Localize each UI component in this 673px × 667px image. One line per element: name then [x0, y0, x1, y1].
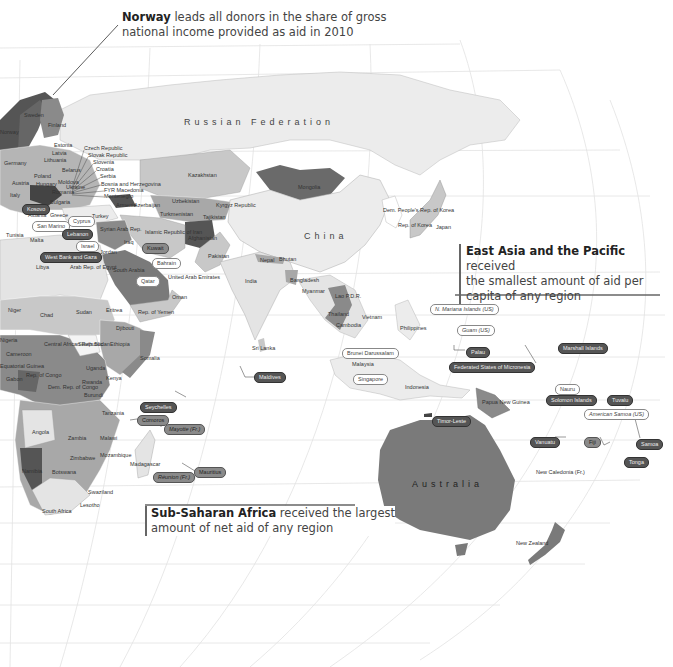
- country-label: Dem. Rep. of Congo: [48, 385, 98, 391]
- territory-pill: Samoa: [636, 439, 663, 450]
- country-label: Afghanistan: [188, 236, 217, 242]
- china-label: China: [304, 232, 348, 241]
- territory-pill: Bahrain: [152, 258, 181, 269]
- east-asia-callout-line3: capita of any region: [466, 289, 673, 304]
- country-label: Gabon: [6, 377, 23, 383]
- country-label: Kazakhstan: [188, 173, 217, 179]
- country-label: United Arab Emirates: [168, 275, 220, 281]
- country-label: Poland: [34, 174, 51, 180]
- territory-pill: Mayotte (Fr.): [164, 424, 205, 435]
- territory-pill: Brunei Darussalam: [342, 348, 399, 359]
- country-label: Tunisia: [6, 233, 24, 239]
- territory-pill: Solomon Islands: [546, 395, 597, 406]
- country-label: Japan: [436, 225, 451, 231]
- africa-callout-bold: Sub-Saharan Africa: [151, 506, 276, 520]
- country-label: Malawi: [100, 436, 117, 442]
- territory-pill: Seychelles: [140, 402, 177, 413]
- country-label: Azerbaijan: [134, 203, 160, 209]
- country-label: Bulgaria: [50, 200, 70, 206]
- territory-pill: West Bank and Gaza: [40, 252, 102, 263]
- europe-country-label: Czech Republic: [84, 146, 123, 152]
- country-label: Iraq: [124, 240, 133, 246]
- australia-label: Australia: [412, 480, 483, 489]
- madagascar-shape: [135, 430, 155, 478]
- sahel-shape: [0, 296, 115, 335]
- country-label: Myanmar: [302, 289, 325, 295]
- country-label: Equatorial Guinea: [0, 364, 44, 370]
- country-label: Latvia: [52, 151, 67, 157]
- territory-pill: Réunion (Fr.): [153, 472, 195, 483]
- country-label: Italy: [10, 193, 20, 199]
- country-label: New Zealand: [516, 541, 548, 547]
- country-label: Jordan: [100, 250, 117, 256]
- country-label: Nigeria: [0, 338, 17, 344]
- country-label: Papua New Guinea: [482, 400, 530, 406]
- norway-callout: Norway leads all donors in the share of …: [122, 10, 387, 40]
- territory-pill: Nauru: [555, 384, 580, 395]
- territory-pill: American Samoa (US): [584, 409, 649, 420]
- country-label: Vietnam: [362, 315, 382, 321]
- country-label: Indonesia: [405, 385, 429, 391]
- country-label: South Africa: [42, 509, 72, 515]
- country-label: Turkmenistan: [160, 212, 193, 218]
- europe-country-label: Slovak Republic: [88, 153, 127, 159]
- country-label: Lesotho: [80, 503, 100, 509]
- europe-country-label: Serbia: [100, 174, 116, 180]
- country-label: Tajikistan: [203, 215, 226, 221]
- europe-country-label: Slovenia: [93, 160, 114, 166]
- country-label: Kyrgyz Republic: [216, 203, 256, 209]
- country-label: Mongolia: [298, 185, 320, 191]
- country-label: Central African Republic: [44, 342, 103, 348]
- se-asia-shape: [298, 275, 368, 338]
- country-label: Bhutan: [279, 257, 296, 263]
- norway-leader: [53, 25, 118, 95]
- country-label: Sudan: [76, 310, 92, 316]
- world-map: [0, 0, 673, 667]
- territory-pill: Marshall Islands: [558, 343, 608, 354]
- country-label: Dem. People's Rep. of Korea: [383, 208, 454, 214]
- norway-callout-line2: national income provided as aid in 2010: [122, 25, 387, 40]
- country-label: Uzbekistan: [172, 199, 199, 205]
- europe-country-label: Montenegro: [104, 194, 133, 200]
- country-label: Zimbabwe: [70, 456, 95, 462]
- country-label: Lithuania: [44, 158, 66, 164]
- country-label: Malta: [30, 238, 43, 244]
- territory-pill: Kosovo: [22, 204, 50, 215]
- country-label: Libya: [36, 265, 49, 271]
- country-label: Oman: [172, 295, 187, 301]
- country-label: Ethiopia: [110, 342, 130, 348]
- territory-pill: Mauritius: [194, 467, 226, 478]
- territory-pill: Timor-Leste: [432, 416, 471, 427]
- country-label: Norway: [0, 130, 19, 136]
- russia-label: Russian Federation: [184, 118, 334, 127]
- country-label: Burundi: [84, 393, 103, 399]
- country-label: Germany: [4, 161, 27, 167]
- territory-pill: Lebanon: [62, 229, 93, 240]
- east-asia-callout-line2: the smallest amount of aid per: [466, 274, 673, 289]
- country-label: Somalia: [140, 356, 160, 362]
- country-label: New Caledonia (Fr.): [536, 470, 585, 476]
- timor-shape: [424, 413, 432, 417]
- territory-pill: Kuwait: [142, 243, 169, 254]
- territory-pill: Federated States of Micronesia: [449, 362, 535, 373]
- norway-callout-bold: Norway: [122, 10, 171, 24]
- territory-pill: Maldives: [254, 372, 286, 383]
- country-label: Arab Rep. of Egypt: [70, 265, 116, 271]
- east-asia-callout: East Asia and the Pacific received the s…: [459, 244, 673, 304]
- country-label: Syrian Arab Rep.: [100, 227, 142, 233]
- territory-pill: Qatar: [136, 276, 160, 287]
- country-label: Angola: [32, 430, 49, 436]
- country-label: Zambia: [68, 436, 86, 442]
- country-label: Hungary: [36, 182, 57, 188]
- country-label: India: [245, 279, 257, 285]
- australia-shape: [378, 415, 515, 540]
- country-label: Tanzania: [102, 411, 124, 417]
- country-label: Niger: [8, 308, 21, 314]
- country-label: Estonia: [54, 143, 72, 149]
- country-label: Rep. of Yemen: [138, 310, 174, 316]
- territory-pill: Cyprus: [68, 216, 95, 227]
- country-label: Austria: [12, 181, 29, 187]
- country-label: Nepal: [260, 258, 274, 264]
- iraq-syria-shape: [96, 220, 132, 250]
- india-shape: [220, 252, 296, 340]
